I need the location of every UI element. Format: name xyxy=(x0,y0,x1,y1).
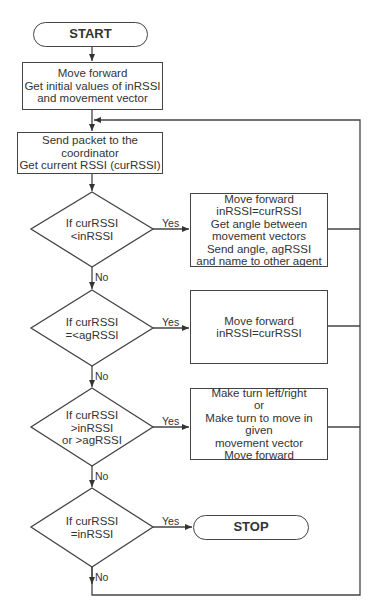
send-packet-box: Send packet to the coordinator Get curre… xyxy=(17,132,163,174)
decision-4-text: If curRSSI =inRSSI xyxy=(42,515,142,540)
init-process-box: Move forward Get initial values of inRSS… xyxy=(22,62,163,110)
action-box-1: Move forward inRSSI=curRSSI Get angle be… xyxy=(190,193,328,267)
no-label-2: No xyxy=(95,370,108,382)
no-label-4: No xyxy=(95,571,108,583)
yes-label-3: Yes xyxy=(162,415,179,427)
decision-1-text: If curRSSI <inRSSI xyxy=(42,217,142,242)
decision-2-text: If curRSSI =<agRSSI xyxy=(42,316,142,341)
decision-3-text: If curRSSI >inRSSI or >agRSSI xyxy=(42,409,142,447)
stop-terminator: STOP xyxy=(193,515,309,540)
no-label-1: No xyxy=(95,271,108,283)
no-label-3: No xyxy=(95,470,108,482)
action-box-2: Move forward inRSSI=curRSSI xyxy=(190,290,328,364)
yes-label-2: Yes xyxy=(162,316,179,328)
start-terminator: START xyxy=(33,22,148,47)
yes-label-4: Yes xyxy=(162,515,179,527)
action-box-3: Make turn left/right or Make turn to mov… xyxy=(190,388,328,460)
yes-label-1: Yes xyxy=(162,217,179,229)
